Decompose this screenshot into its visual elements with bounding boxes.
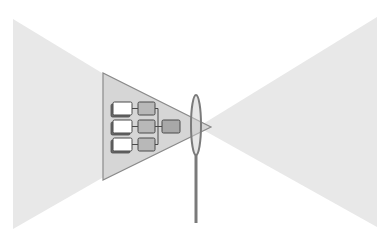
right-light-cone [198,17,377,227]
lens-diagram [0,0,388,239]
lens-icon [191,95,201,155]
input-box [113,138,132,151]
process-box [138,102,155,115]
process-boxes [138,102,155,151]
process-box [138,138,155,151]
input-boxes [111,102,132,153]
output-box [162,120,180,133]
input-box [113,120,132,133]
output-box-rect [162,120,180,133]
process-box [138,120,155,133]
diagram-canvas [0,0,388,239]
input-box [113,102,132,115]
